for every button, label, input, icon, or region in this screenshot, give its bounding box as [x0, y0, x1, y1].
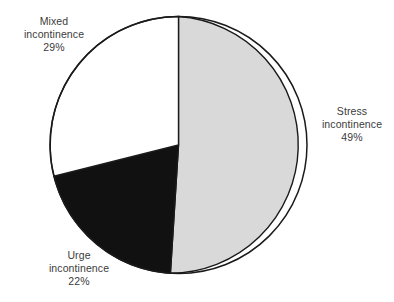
- pie-label-stress-incontinence: Stress incontinence 49%: [310, 105, 394, 145]
- pie-chart-figure: Mixed incontinence 29% Stress incontinen…: [0, 0, 394, 302]
- pie-label-mixed-incontinence: Mixed incontinence 29%: [6, 15, 102, 55]
- pie-slice-stress-incontinence[interactable]: [170, 17, 298, 274]
- pie-label-urge-incontinence: Urge incontinence 22%: [32, 249, 126, 289]
